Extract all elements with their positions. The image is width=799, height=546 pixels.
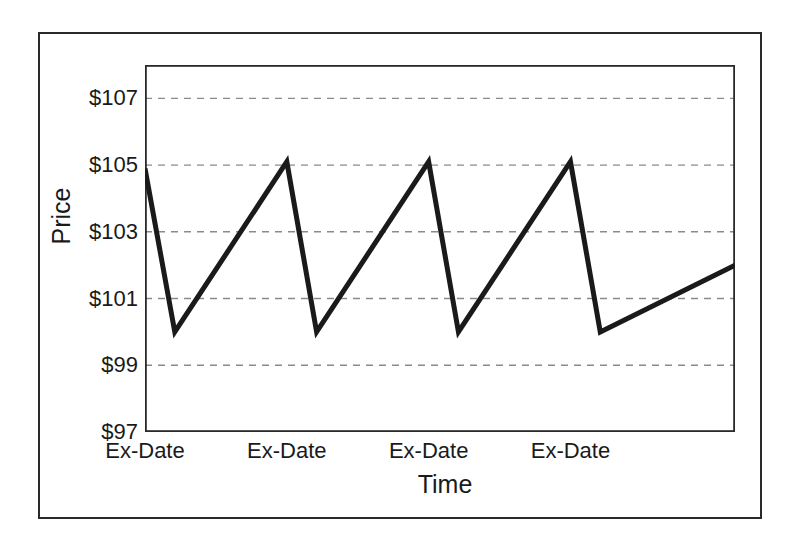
x-axis-title: Time xyxy=(145,470,745,499)
series-line-price xyxy=(145,162,735,332)
gridlines xyxy=(145,98,735,432)
figure-canvas: $107$105$103$101$99$97 Ex-DateEx-DateEx-… xyxy=(0,0,799,546)
axes-frame xyxy=(146,66,734,431)
chart-svg xyxy=(145,65,735,432)
axes-box xyxy=(146,66,734,431)
plot-area xyxy=(145,65,735,432)
x-tick-label: Ex-Date xyxy=(65,440,225,462)
x-tick-label: Ex-Date xyxy=(349,440,509,462)
x-tick-label: Ex-Date xyxy=(207,440,367,462)
data-series-line xyxy=(145,162,735,332)
y-axis-title: Price xyxy=(47,146,76,286)
x-tick-label: Ex-Date xyxy=(490,440,650,462)
